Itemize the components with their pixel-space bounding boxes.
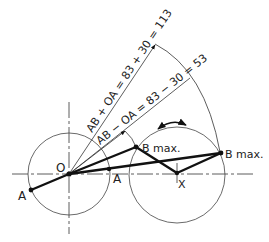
crank-bar-a-left xyxy=(31,174,69,190)
label-a-left: A xyxy=(18,189,27,203)
label-x: X xyxy=(178,178,186,191)
label-b-max-2: B max. xyxy=(225,148,264,161)
point-b-max-1 xyxy=(134,145,139,150)
point-a-right xyxy=(107,167,111,171)
label-o: O xyxy=(56,161,65,175)
swing-double-arrow xyxy=(158,122,186,129)
point-x xyxy=(175,171,179,175)
point-a-left xyxy=(29,188,34,193)
point-b-max-2 xyxy=(219,151,224,156)
point-o xyxy=(66,171,71,176)
linkage-diagram: O A A B max. B max. X AB + OA = 83 + 30 … xyxy=(0,0,269,242)
label-b-max-1: B max. xyxy=(142,142,181,155)
arc-53 xyxy=(125,131,136,147)
label-a-right: A xyxy=(113,172,122,186)
